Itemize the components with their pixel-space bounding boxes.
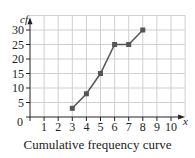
- data-point-marker: [98, 71, 103, 76]
- y-tick-label: 20: [12, 52, 24, 66]
- origin-label: 0: [17, 115, 23, 129]
- y-tick-label: 25: [12, 38, 24, 52]
- y-tick-label: 15: [12, 67, 24, 81]
- x-tick-label: 5: [98, 120, 104, 134]
- x-tick-label: 8: [140, 120, 146, 134]
- x-axis-label: x: [182, 115, 188, 127]
- cumulative-frequency-chart: 12345678910510152025300xcf: [0, 0, 195, 158]
- y-tick-label: 10: [12, 81, 24, 95]
- x-tick-label: 6: [112, 120, 118, 134]
- x-tick-label: 10: [165, 120, 177, 134]
- data-point-marker: [70, 106, 75, 111]
- x-tick-label: 7: [126, 120, 132, 134]
- cf-line: [72, 30, 143, 108]
- y-axis-arrow-icon: [28, 17, 33, 24]
- x-tick-label: 4: [83, 120, 89, 134]
- chart-caption: Cumulative frequency curve: [0, 137, 195, 153]
- x-tick-label: 3: [69, 120, 75, 134]
- x-tick-label: 9: [154, 120, 160, 134]
- data-point-marker: [126, 42, 131, 47]
- y-tick-label: 5: [18, 96, 24, 110]
- data-point-marker: [112, 42, 117, 47]
- data-point-marker: [140, 28, 145, 33]
- x-tick-label: 1: [41, 120, 47, 134]
- data-point-marker: [84, 91, 89, 96]
- x-tick-label: 2: [55, 120, 61, 134]
